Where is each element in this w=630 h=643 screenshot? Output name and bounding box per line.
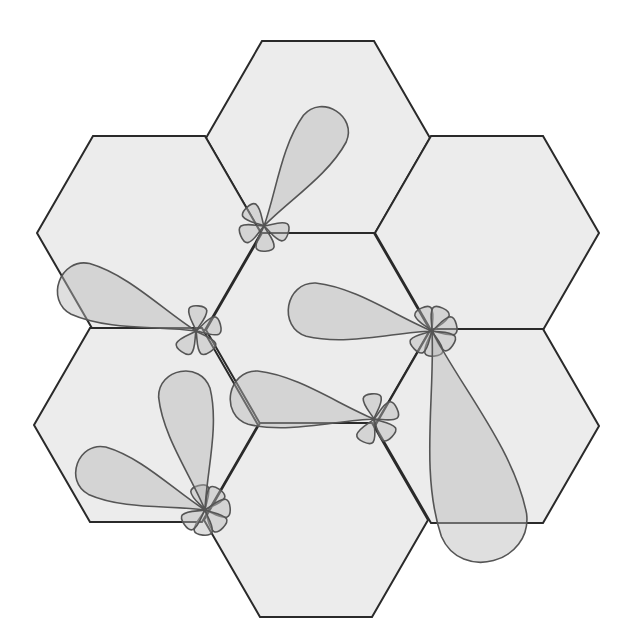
hex-cell-diagram: Hexagonal cell layout with 3-sector ante… xyxy=(0,0,630,643)
diagram-canvas xyxy=(0,0,630,643)
